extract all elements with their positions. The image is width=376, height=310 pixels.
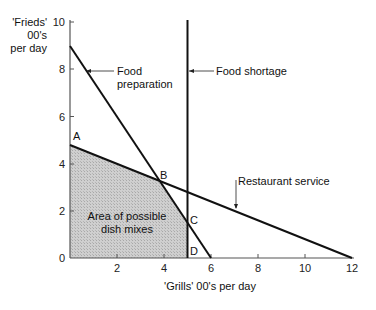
svg-text:8: 8 (255, 262, 261, 274)
x-tick-labels: 2 4 6 8 10 12 (114, 262, 358, 274)
food-shortage-annotation: Food shortage (189, 65, 287, 77)
point-label-c: C (190, 214, 198, 226)
svg-text:8: 8 (59, 63, 65, 75)
point-label-d: D (190, 245, 198, 257)
svg-text:per day: per day (10, 42, 47, 54)
svg-text:'Frieds': 'Frieds' (12, 16, 47, 28)
svg-text:Food shortage: Food shortage (216, 65, 287, 77)
x-axis-label: 'Grills' 00's per day (164, 280, 256, 292)
y-axis-label: 'Frieds' 00's per day (10, 16, 47, 54)
svg-text:6: 6 (59, 111, 65, 123)
svg-text:2: 2 (59, 205, 65, 217)
svg-text:10: 10 (53, 16, 65, 28)
svg-text:4: 4 (161, 262, 167, 274)
svg-text:Food: Food (117, 65, 142, 77)
svg-text:10: 10 (299, 262, 311, 274)
svg-text:2: 2 (114, 262, 120, 274)
svg-text:dish mixes: dish mixes (101, 223, 153, 235)
svg-text:00's: 00's (27, 29, 47, 41)
point-label-a: A (73, 130, 81, 142)
chart: 0 2 4 6 8 10 2 4 6 8 10 12 'Frieds' 00's… (0, 0, 376, 310)
svg-text:Restaurant service: Restaurant service (238, 175, 330, 187)
y-tick-labels: 0 2 4 6 8 10 (53, 16, 65, 264)
svg-text:preparation: preparation (117, 78, 173, 90)
svg-text:6: 6 (208, 262, 214, 274)
svg-text:12: 12 (346, 262, 358, 274)
point-label-b: B (160, 169, 167, 181)
svg-text:Area of possible: Area of possible (88, 210, 167, 222)
feasible-region (70, 145, 188, 258)
svg-text:0: 0 (59, 252, 65, 264)
svg-text:4: 4 (59, 158, 65, 170)
restaurant-service-annotation: Restaurant service (234, 175, 330, 209)
food-preparation-annotation: Food preparation (86, 65, 173, 90)
